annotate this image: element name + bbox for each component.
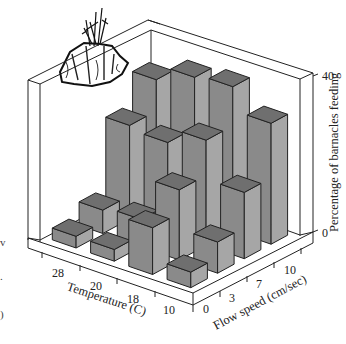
- temp-tick-10: 10: [163, 303, 175, 317]
- cropped-text-fragments: v . ): [0, 236, 6, 321]
- flow-tick-3: 3: [229, 291, 235, 305]
- bar-temp-18-flow-0: [129, 211, 169, 275]
- flow-tick-7: 7: [256, 277, 262, 291]
- bars-group: [52, 60, 287, 288]
- barnacle-feeding-3d-bar-chart: 40 0 28 20 18 10 0 3 7 10 Temperature (C…: [0, 0, 346, 344]
- svg-text:): ): [0, 308, 4, 321]
- svg-text:v: v: [0, 236, 6, 248]
- temp-tick-28: 28: [52, 266, 64, 280]
- svg-text:.: .: [0, 270, 3, 282]
- z-axis-title: Percentage of barnacles feeding: [327, 72, 341, 232]
- flow-tick-0: 0: [203, 302, 209, 316]
